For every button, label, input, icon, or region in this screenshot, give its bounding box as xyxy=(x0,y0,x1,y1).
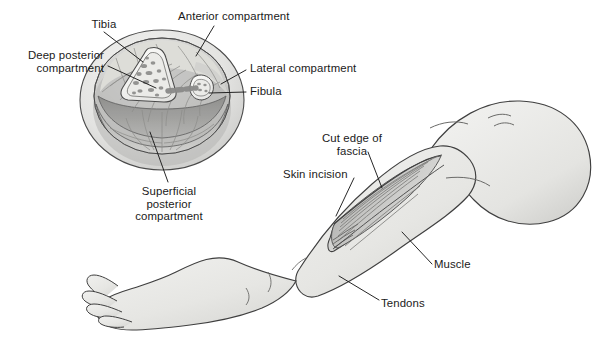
label-anterior-compartment: Anterior compartment xyxy=(178,10,318,23)
label-superficial-posterior-compartment: Superficial posterior compartment xyxy=(122,185,216,223)
label-cut-edge-of-fascia: Cut edge of fascia xyxy=(310,132,394,157)
leader-line-tendons xyxy=(339,276,379,300)
cross-section-group xyxy=(80,30,244,170)
label-fibula: Fibula xyxy=(250,85,300,98)
label-skin-incision: Skin incision xyxy=(283,168,363,181)
label-tendons: Tendons xyxy=(381,297,437,310)
label-muscle: Muscle xyxy=(434,258,484,271)
label-tibia: Tibia xyxy=(80,18,128,31)
label-deep-posterior-compartment: Deep posterior compartment xyxy=(8,49,104,74)
foot xyxy=(97,258,296,330)
interosseous-membrane xyxy=(168,88,196,91)
label-lateral-compartment: Lateral compartment xyxy=(250,62,380,75)
medical-illustration-figure: TibiaAnterior compartmentDeep posterior … xyxy=(0,0,599,342)
